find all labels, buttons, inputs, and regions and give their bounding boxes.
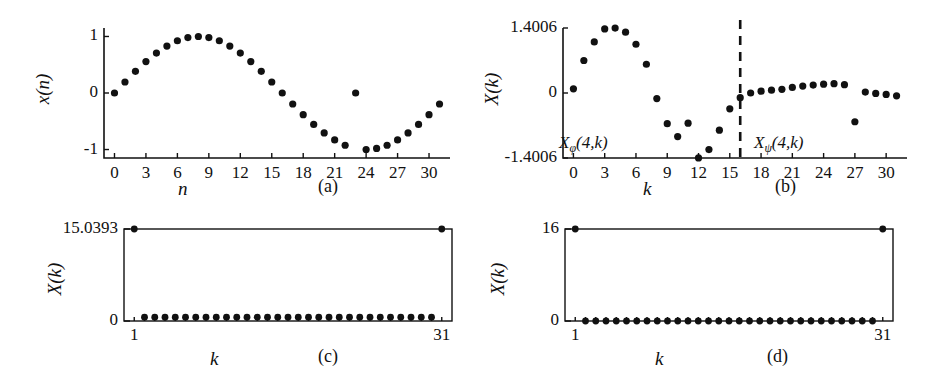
data-point [258,68,265,75]
panel-b-xtick-1: 3 [594,163,616,183]
data-point [746,318,753,325]
data-point [820,81,827,88]
data-point [612,24,619,31]
data-point [613,318,620,325]
data-point [674,318,681,325]
panel-b-xtick-6: 18 [750,163,772,183]
data-point [768,87,775,94]
data-point [716,127,723,134]
data-point [623,318,630,325]
panel-b-xtick-7: 21 [781,163,803,183]
data-point [674,133,681,140]
panel-b-annotation-psi-args: (4,k) [772,133,804,152]
data-point [310,121,317,128]
panel-d-xtick-1: 31 [870,325,896,345]
panel-b-annotation-phi-args: (4,k) [576,133,608,152]
data-point [216,37,223,44]
data-point [363,146,370,153]
data-point [736,318,743,325]
data-point [799,82,806,89]
panel-b-annotation-psi: Xψ(4,k) [754,133,803,156]
data-point [172,314,179,321]
panel-a-xtick-3: 9 [198,163,220,183]
data-point [818,318,825,325]
data-point [163,42,170,49]
data-point [315,314,322,321]
data-point [387,314,394,321]
data-point [654,318,661,325]
data-point [592,318,599,325]
data-point [787,318,794,325]
data-point [633,318,640,325]
panel-b-xtick-3: 9 [656,163,678,183]
data-point [810,82,817,89]
data-point [321,129,328,136]
data-point [383,142,390,149]
data-point [695,154,702,161]
data-point [570,85,577,92]
data-point [777,318,784,325]
data-point [726,318,733,325]
data-point [428,314,435,321]
data-point [705,146,712,153]
panel-c-caption: (c) [318,346,338,367]
data-point [111,89,118,96]
data-point [438,226,445,233]
data-point [295,314,302,321]
data-point [377,314,384,321]
data-point [436,100,443,107]
data-point [254,314,261,321]
data-point [418,314,425,321]
data-point [715,318,722,325]
data-point [394,136,401,143]
panel-a: x(n) n (a) 10-1036912151821242730 [0,0,462,196]
data-point [838,318,845,325]
panel-b-annotation-psi-base: X [754,133,764,152]
data-point [174,37,181,44]
panel-c: X(k) k (c) 15.03930131 [0,196,462,386]
panel-b-xtick-10: 30 [875,163,897,183]
panel-b-xtick-2: 6 [625,163,647,183]
data-point [285,314,292,321]
data-point [664,120,671,127]
data-point [352,89,359,96]
data-point [279,89,286,96]
panel-a-ytick-1: 0 [62,82,98,102]
data-point [268,78,275,85]
data-point [859,318,866,325]
panel-b: X(k) k (b) Xφ(4,k) Xψ(4,k) 1.40060-1.400… [455,0,925,196]
data-point [572,226,579,233]
panel-c-ytick-1: 0 [34,310,118,330]
data-point [132,68,139,75]
panel-a-xtick-9: 27 [387,163,409,183]
panel-d: X(k) k (d) 160131 [455,196,925,386]
panel-b-xtick-9: 27 [844,163,866,183]
panel-a-xtick-2: 6 [166,163,188,183]
data-point [331,136,338,143]
data-point [869,318,876,325]
panel-c-ytick-0: 15.0393 [34,218,118,238]
data-point [131,226,138,233]
panel-c-y-axis-label: X(k) [44,244,66,314]
data-point [244,314,251,321]
data-point [830,80,837,87]
panel-b-xtick-5: 15 [719,163,741,183]
data-point [356,314,363,321]
data-point [684,120,691,127]
data-point [622,29,629,36]
panel-d-y-axis-label: X(k) [487,244,509,314]
data-point [142,58,149,65]
data-point [841,81,848,88]
panel-a-xtick-7: 21 [324,163,346,183]
data-point [747,89,754,96]
panel-c-xtick-1: 31 [429,325,455,345]
panel-a-xtick-4: 12 [229,163,251,183]
data-point [408,314,415,321]
data-point [591,38,598,45]
panel-b-ytick-0: 1.4006 [469,17,557,37]
panel-a-y-axis-label: x(n) [32,54,54,124]
data-point [767,318,774,325]
data-point [879,226,886,233]
data-point [184,34,191,41]
data-point [373,145,380,152]
